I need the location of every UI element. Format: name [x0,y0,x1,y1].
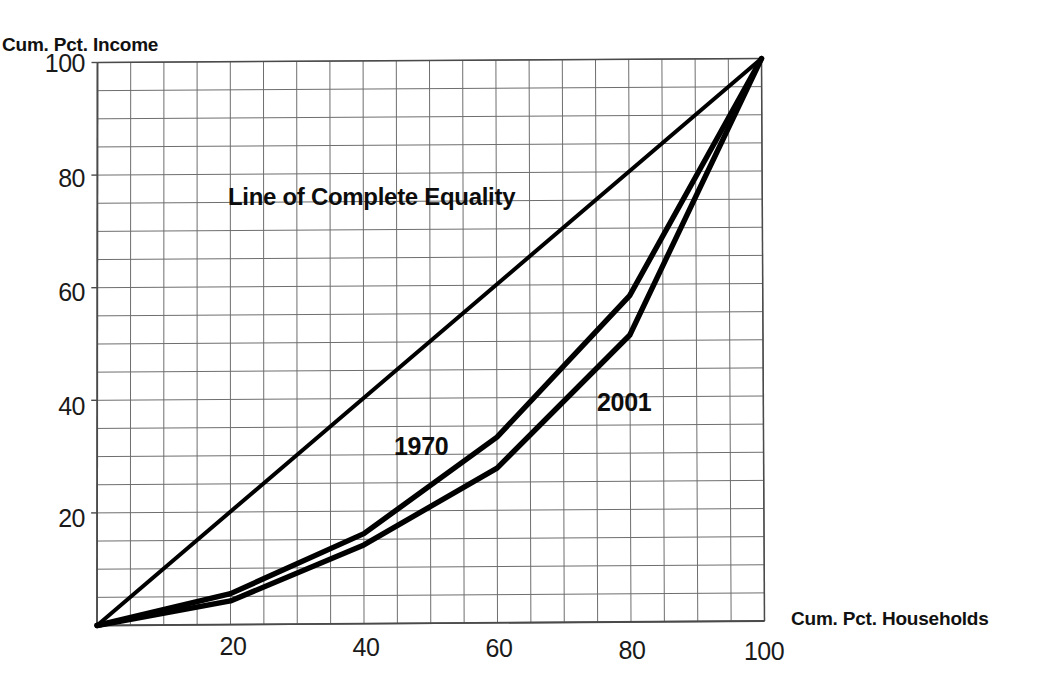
x-tick-label-60: 60 [474,634,524,663]
y-tick-label-40: 40 [17,392,85,421]
x-tick-label-40: 40 [341,633,391,662]
annotation-line-of-complete-equality: Line of Complete Equality [228,183,515,211]
x-tick-label-80: 80 [607,636,657,665]
y-axis-line [97,63,98,626]
lorenz-curve-chart: Cum. Pct. Income Cum. Pct. Households 10… [0,0,1048,691]
y-tick-label-100: 100 [17,49,85,78]
x-tick-label-100: 100 [733,637,795,666]
annotation-curve-1970: 1970 [394,432,448,461]
annotation-curve-2001: 2001 [597,388,651,417]
y-tick-label-80: 80 [17,164,85,193]
y-tick-label-60: 60 [17,278,85,307]
x-tick-label-20: 20 [208,632,258,661]
x-axis-title: Cum. Pct. Households [791,608,989,630]
y-tick-label-20: 20 [17,504,85,533]
plot-area [0,0,1048,691]
